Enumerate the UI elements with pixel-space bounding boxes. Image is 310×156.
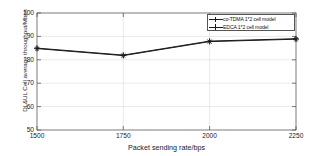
chart-figure: 100 90 80 70 60 50 1500 1750 2000 2250 D… [0,0,310,156]
star-marker-icon [209,24,223,31]
chart-legend[interactable]: co-TDMA 1*2 cell model EDCA 1*2 cell mod… [207,14,295,31]
legend-label: EDCA 1*2 cell model [223,24,268,32]
x-tick-label: 1500 [17,133,57,140]
x-tick-label: 1750 [103,133,143,140]
y-axis-label: DL&UL Cell average throughput/Mbps [21,0,28,131]
legend-label: co-TDMA 1*2 cell model [223,16,275,24]
legend-entry-edca[interactable]: EDCA 1*2 cell model [209,24,293,32]
x-tick-label: 2250 [276,133,310,140]
x-tick-label: 2000 [190,133,230,140]
legend-entry-co-tdma[interactable]: co-TDMA 1*2 cell model [209,16,293,24]
x-axis-label: Packet sending rate/bps [37,143,296,152]
plus-marker-icon [209,16,223,23]
